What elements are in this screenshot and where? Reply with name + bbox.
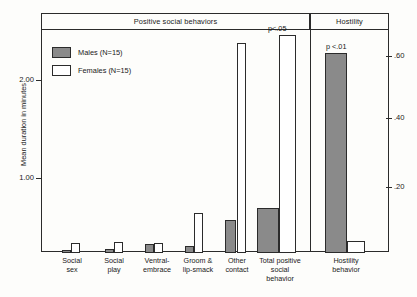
bar-other-contact-females: [237, 43, 246, 253]
x-axis-label-total-positive: Total positive social behavior: [244, 256, 316, 284]
panel-divider: [310, 30, 311, 252]
bar-hostility-females: [347, 241, 365, 254]
y-axis-right-tick-.40: [386, 118, 392, 119]
y-axis-left-title: Mean duration in minutes: [19, 50, 28, 200]
bar-total-positive-females: [279, 35, 296, 254]
y-axis-right-label-.60: .60: [394, 51, 417, 60]
bar-groom-lip-smack-females: [194, 213, 203, 253]
panel-header-hostility: Hostility: [310, 13, 389, 30]
x-axis-label-hostility-behavior: Hostility behavior: [316, 256, 376, 274]
legend-label-males: Males (N=15): [78, 48, 123, 57]
bar-ventral-embrace-females: [154, 243, 163, 253]
legend: Males (N=15) Females (N=15): [52, 47, 131, 83]
legend-label-females: Females (N=15): [78, 66, 131, 75]
y-axis-left-tick-2.00: [36, 80, 42, 81]
bar-other-contact-males: [225, 220, 236, 253]
x-axis-label-social-sex: Social sex: [51, 256, 93, 274]
x-axis-label-social-play: Social play: [93, 256, 135, 274]
legend-swatch-females-icon: [52, 65, 71, 76]
y-axis-right-label-.20: .20: [394, 182, 417, 191]
y-axis-left-tick-1.00: [36, 178, 42, 179]
bar-social-play-females: [114, 242, 123, 254]
y-axis-right-tick-.60: [386, 56, 392, 57]
panel-header-hostility-label: Hostility: [336, 17, 363, 26]
bar-total-positive-males: [257, 208, 279, 253]
legend-item-females: Females (N=15): [52, 65, 131, 76]
bar-hostility-males: [325, 53, 347, 254]
bar-ventral-embrace-males: [145, 244, 154, 253]
bar-social-sex-females: [71, 243, 80, 254]
figure: Positive social behaviors Hostility 2.00…: [0, 0, 417, 297]
panel-header-positive-label: Positive social behaviors: [134, 17, 217, 26]
significance-label-total-positive: p<.05: [268, 24, 286, 33]
legend-swatch-males-icon: [52, 47, 71, 58]
bar-social-sex-males: [62, 250, 71, 253]
bar-groom-lip-smack-males: [185, 246, 194, 253]
y-axis-right-label-.40: .40: [394, 113, 417, 122]
y-axis-right-tick-.20: [386, 187, 392, 188]
significance-label-hostility: p <.01: [326, 42, 347, 51]
bar-social-play-males: [105, 249, 114, 253]
legend-item-males: Males (N=15): [52, 47, 131, 58]
